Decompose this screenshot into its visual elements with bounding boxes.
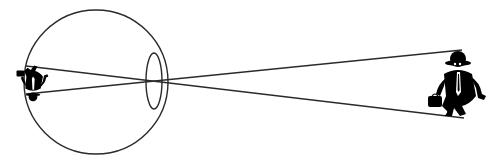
eye-diagram: Eye forming an inverted image of an obje… [0,0,504,162]
diagram-canvas [0,0,504,162]
inverted-image-icon [16,66,48,102]
object-figure-icon [428,51,486,116]
bottom-ray [26,66,464,118]
top-ray [26,50,462,94]
